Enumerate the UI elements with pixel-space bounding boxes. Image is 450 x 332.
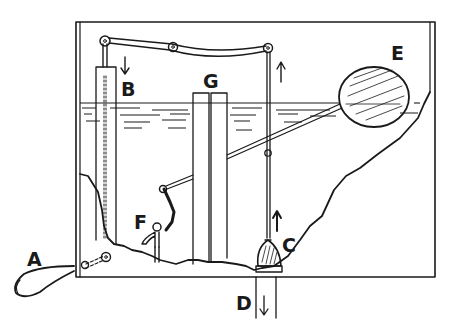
arrow-up-c-icon bbox=[273, 211, 281, 231]
arrow-down-d-icon bbox=[260, 296, 268, 315]
lever-arm bbox=[100, 36, 273, 56]
pivot-left bbox=[100, 36, 110, 46]
arrow-up-rod-icon bbox=[277, 62, 285, 82]
outlet-pipe-d bbox=[256, 277, 276, 318]
toilet-tank-diagram: A B C D E F G bbox=[0, 0, 450, 332]
label-c: C bbox=[282, 234, 296, 256]
tank-cutaway-wall bbox=[80, 92, 430, 270]
tube-b bbox=[96, 44, 116, 244]
label-b: B bbox=[121, 78, 135, 100]
arrow-down-b-icon bbox=[121, 57, 129, 74]
label-f: F bbox=[134, 211, 147, 233]
label-g: G bbox=[203, 70, 219, 92]
overflow-tube-g bbox=[193, 93, 227, 264]
pivot-right bbox=[264, 44, 273, 53]
label-a: A bbox=[27, 248, 42, 270]
label-d: D bbox=[236, 292, 252, 314]
label-e: E bbox=[391, 42, 404, 64]
lift-rod bbox=[265, 52, 271, 238]
tank-outline bbox=[76, 22, 435, 277]
